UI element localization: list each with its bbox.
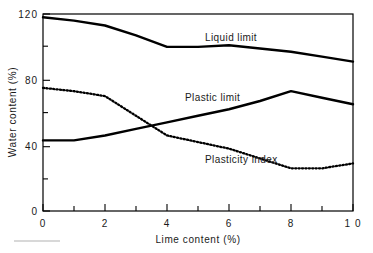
y-tick-label-80: 80	[25, 75, 38, 86]
atterberg-limits-chart: 120 80 40 0 0 2 4 6 8 1 0 Lime content (…	[0, 0, 373, 253]
chart-figure: 120 80 40 0 0 2 4 6 8 1 0 Lime content (…	[0, 0, 373, 253]
caption-rule	[14, 240, 60, 242]
y-axis-ticks	[43, 14, 50, 211]
y-tick-label-0: 0	[31, 206, 38, 217]
x-axis-title: Lime content (%)	[155, 234, 240, 245]
label-liquid-limit: Liquid limit	[205, 32, 257, 43]
x-tick-label-8: 8	[288, 218, 295, 229]
series-liquid-limit	[43, 17, 353, 61]
x-tick-label-4: 4	[164, 218, 171, 229]
y-tick-label-120: 120	[18, 9, 38, 20]
plot-frame	[43, 14, 353, 211]
y-tick-label-40: 40	[25, 141, 38, 152]
x-tick-label-6: 6	[226, 218, 233, 229]
x-tick-label-10: 1 0	[345, 218, 362, 229]
x-axis-ticks	[43, 204, 353, 211]
x-tick-label-0: 0	[40, 218, 47, 229]
label-plasticity-index: Plasticity index	[205, 154, 278, 165]
x-tick-label-2: 2	[102, 218, 109, 229]
y-axis-title: Water content (%)	[7, 67, 18, 157]
label-plastic-limit: Plastic limit	[185, 92, 240, 103]
